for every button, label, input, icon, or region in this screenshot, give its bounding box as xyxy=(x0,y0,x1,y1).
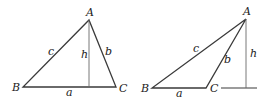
left-triangle-shape xyxy=(23,20,116,87)
right-side-b: b xyxy=(224,53,231,66)
right-vertex-a: A xyxy=(242,5,251,18)
right-vertex-b: B xyxy=(140,82,149,95)
left-vertex-a: A xyxy=(85,6,94,19)
left-side-b: b xyxy=(105,45,112,58)
diagram-svg: A B C a b c h A B C a b c h xyxy=(0,0,267,102)
left-height-h: h xyxy=(81,48,88,61)
triangle-diagram: A B C a b c h A B C a b c h xyxy=(0,0,267,102)
left-vertex-c: C xyxy=(119,82,128,95)
right-height-h: h xyxy=(250,47,257,60)
left-side-c: c xyxy=(48,45,54,58)
right-side-a: a xyxy=(176,87,183,100)
left-triangle: A B C a b c h xyxy=(11,6,128,99)
left-side-a: a xyxy=(66,86,73,99)
right-side-c: c xyxy=(193,42,199,55)
right-vertex-c: C xyxy=(210,82,219,95)
right-triangle: A B C a b c h xyxy=(140,5,257,100)
left-vertex-b: B xyxy=(11,81,20,94)
